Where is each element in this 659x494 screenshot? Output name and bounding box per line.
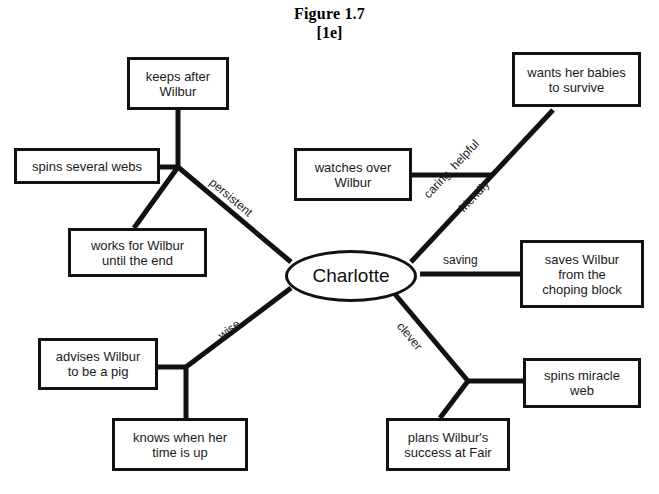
node-label-keeps-after-wilbur: keeps after Wilbur	[134, 69, 222, 99]
edge-label-saving: saving	[440, 254, 481, 267]
node-line-1: watches over	[315, 160, 392, 175]
node-wants-her-babies[interactable]: wants her babies to survive	[512, 52, 641, 107]
node-works-for-wilbur[interactable]: works for Wilbur until the end	[68, 228, 207, 277]
node-line-1: knows when her	[133, 430, 227, 445]
node-line-2: Wilbur	[335, 175, 372, 190]
node-line-2: from the	[558, 267, 606, 282]
node-line-3: choping block	[542, 282, 622, 297]
node-label-knows-when: knows when her time is up	[119, 430, 241, 460]
node-line-1: plans Wilbur's	[408, 430, 489, 445]
node-label-plans-wilbur: plans Wilbur's success at Fair	[393, 430, 503, 460]
node-knows-when[interactable]: knows when her time is up	[112, 418, 248, 471]
node-line-2: success at Fair	[404, 445, 491, 460]
node-line-2: Wilbur	[160, 84, 197, 99]
node-line-1: works for Wilbur	[91, 238, 184, 253]
center-node-label: Charlotte	[312, 265, 389, 287]
node-label-spins-several-webs: spins several webs	[21, 159, 153, 174]
node-line-1: keeps after	[146, 69, 210, 84]
node-line-2: to survive	[549, 80, 605, 95]
node-advises-wilbur[interactable]: advises Wilbur to be a pig	[38, 338, 158, 390]
node-line-2: until the end	[102, 253, 173, 268]
node-watches-over-wilbur[interactable]: watches over Wilbur	[294, 148, 412, 201]
edge-plans-wilbur	[440, 381, 468, 418]
node-plans-wilbur[interactable]: plans Wilbur's success at Fair	[386, 418, 510, 471]
node-keeps-after-wilbur[interactable]: keeps after Wilbur	[127, 57, 229, 110]
node-line-2: web	[570, 383, 594, 398]
node-spins-miracle-web[interactable]: spins miracle web	[523, 358, 641, 408]
node-label-saves-wilbur: saves Wilbur from the choping block	[527, 252, 637, 297]
center-node-charlotte[interactable]: Charlotte	[285, 250, 417, 302]
figure-canvas: Figure 1.7 [1e]	[0, 0, 659, 494]
node-line-1: spins several webs	[32, 159, 142, 174]
node-line-2: time is up	[152, 445, 208, 460]
node-line-1: spins miracle	[544, 368, 620, 383]
node-label-wants-her-babies: wants her babies to survive	[519, 65, 634, 95]
node-line-1: advises Wilbur	[56, 349, 141, 364]
node-label-works-for-wilbur: works for Wilbur until the end	[75, 238, 200, 268]
node-label-advises-wilbur: advises Wilbur to be a pig	[45, 349, 151, 379]
node-label-watches-over-wilbur: watches over Wilbur	[301, 160, 405, 190]
node-line-1: wants her babies	[527, 65, 625, 80]
node-spins-several-webs[interactable]: spins several webs	[14, 148, 160, 184]
node-label-spins-miracle-web: spins miracle web	[530, 368, 634, 398]
node-saves-wilbur[interactable]: saves Wilbur from the choping block	[520, 240, 644, 308]
node-line-2: to be a pig	[68, 364, 129, 379]
node-line-1: saves Wilbur	[545, 252, 619, 267]
